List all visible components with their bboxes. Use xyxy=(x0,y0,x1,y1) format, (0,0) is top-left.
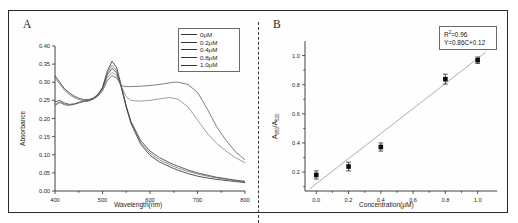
svg-text:0.15: 0.15 xyxy=(39,134,50,140)
legend-label: 0.8μM xyxy=(200,54,217,62)
legend-item-4: 1.0μM xyxy=(181,61,236,69)
legend-swatch-line xyxy=(181,57,197,58)
annotation-r-squared: R2=0.96 xyxy=(444,29,492,40)
svg-text:0.20: 0.20 xyxy=(39,116,50,122)
legend-swatch-line xyxy=(181,65,197,66)
svg-text:0.25: 0.25 xyxy=(39,97,50,103)
panel-a-legend: 0μM 0.2μM 0.4μM 0.8μM 1.0μM xyxy=(178,28,240,72)
legend-item-2: 0.4μM xyxy=(181,46,236,54)
svg-text:0.00: 0.00 xyxy=(39,188,50,194)
legend-item-1: 0.2μM xyxy=(181,39,236,47)
svg-text:0.35: 0.35 xyxy=(39,61,50,67)
panel-b-annotation-box: R2=0.96 Y=0.86C+0.12 xyxy=(439,26,497,50)
legend-item-0: 0μM xyxy=(181,31,236,39)
svg-text:800: 800 xyxy=(240,197,250,203)
svg-text:500: 500 xyxy=(98,197,108,203)
annotation-equation: Y=0.86C+0.12 xyxy=(444,39,492,47)
panel-b-y-axis-sep: /A xyxy=(271,121,278,127)
legend-swatch-line xyxy=(181,49,197,50)
panel-b-y-axis-sub1: 650 xyxy=(275,127,280,134)
svg-text:1.0: 1.0 xyxy=(474,197,482,203)
panel-b: B 0.20.40.60.81.0 0.00.20.40.60.81.0 A65… xyxy=(259,11,509,214)
legend-item-3: 0.8μM xyxy=(181,54,236,62)
panel-b-y-axis-sub2: 520 xyxy=(275,113,280,120)
panel-b-y-axis-a1: A xyxy=(271,135,278,139)
panel-a-x-axis-title: Wavelength(nm) xyxy=(114,201,162,208)
svg-text:0.8: 0.8 xyxy=(441,197,449,203)
annotation-r-value: =0.96 xyxy=(451,31,467,38)
legend-swatch-line xyxy=(181,42,197,43)
legend-label: 0.4μM xyxy=(200,46,217,54)
svg-text:1.0: 1.0 xyxy=(292,53,300,59)
svg-text:0.2: 0.2 xyxy=(345,197,353,203)
svg-text:0.40: 0.40 xyxy=(39,43,50,49)
legend-label: 1.0μM xyxy=(200,61,217,69)
legend-label: 0.2μM xyxy=(200,39,217,47)
svg-text:0.2: 0.2 xyxy=(292,169,300,175)
svg-text:0.0: 0.0 xyxy=(312,197,320,203)
panel-b-x-axis-title: Concentration(μM) xyxy=(359,201,414,208)
svg-text:0.10: 0.10 xyxy=(39,152,50,158)
svg-text:0.05: 0.05 xyxy=(39,170,50,176)
svg-text:0.6: 0.6 xyxy=(292,111,300,117)
legend-swatch-line xyxy=(181,34,197,35)
panel-a-y-axis-title: Absorbance xyxy=(19,111,26,146)
panel-a: A 0.000.050.100.150.200.250.300.350.40 4… xyxy=(9,11,259,214)
svg-text:700: 700 xyxy=(193,197,203,203)
svg-text:0.4: 0.4 xyxy=(292,140,300,146)
figure-frame: A 0.000.050.100.150.200.250.300.350.40 4… xyxy=(8,10,508,213)
svg-text:0.30: 0.30 xyxy=(39,79,50,85)
panel-b-y-axis-title: A650/A520 xyxy=(271,113,280,139)
legend-label: 0μM xyxy=(200,31,212,39)
svg-text:400: 400 xyxy=(50,197,60,203)
svg-text:0.8: 0.8 xyxy=(292,82,300,88)
